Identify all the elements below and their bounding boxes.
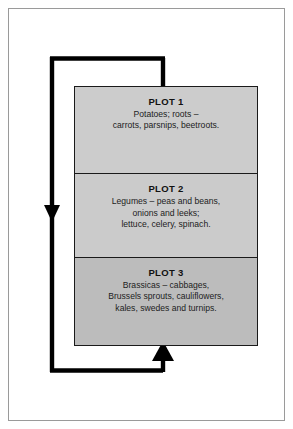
plot-1-title: PLOT 1 — [148, 96, 183, 108]
plot-stack: PLOT 1 Potatoes; roots – carrots, parsni… — [74, 86, 258, 346]
plot-2-title: PLOT 2 — [148, 183, 183, 195]
plot-1-description: Potatoes; roots – carrots, parsnips, bee… — [107, 109, 226, 132]
loop-arrowhead-down — [44, 205, 60, 222]
plot-3-title: PLOT 3 — [148, 267, 183, 279]
plot-box-1: PLOT 1 Potatoes; roots – carrots, parsni… — [75, 87, 257, 173]
plot-3-description: Brassicas – cabbages, Brussels sprouts, … — [102, 280, 230, 314]
plot-2-description: Legumes – peas and beans, onions and lee… — [106, 196, 226, 230]
crop-rotation-diagram: PLOT 1 Potatoes; roots – carrots, parsni… — [0, 0, 293, 429]
plot-box-2: PLOT 2 Legumes – peas and beans, onions … — [75, 173, 257, 256]
plot-box-3: PLOT 3 Brassicas – cabbages, Brussels sp… — [75, 257, 257, 345]
